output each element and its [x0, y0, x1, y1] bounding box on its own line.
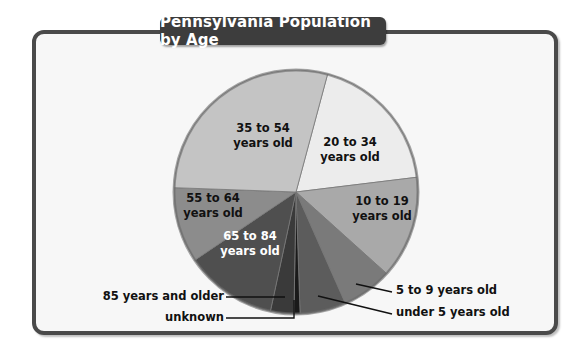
label-line: 55 to 64	[178, 191, 248, 206]
label-line: 65 to 84	[210, 229, 290, 244]
slice-label-10-19: 10 to 19 years old	[342, 194, 422, 224]
pie-chart	[0, 0, 586, 354]
label-line: 10 to 19	[342, 194, 422, 209]
label-line: years old	[310, 150, 390, 165]
callout-5-to-9: 5 to 9 years old	[396, 283, 497, 297]
callout-unknown: unknown	[165, 310, 224, 324]
callout-85-and-older: 85 years and older	[103, 289, 224, 303]
callout-under-5: under 5 years old	[396, 305, 510, 319]
chart-title: Pennsylvania Population by Age	[160, 17, 386, 45]
label-line: years old	[218, 136, 308, 151]
slice-label-55-64: 55 to 64 years old	[178, 191, 248, 221]
label-line: 35 to 54	[218, 121, 308, 136]
slice-label-65-84: 65 to 84 years old	[210, 229, 290, 259]
label-line: years old	[178, 206, 248, 221]
label-line: years old	[342, 209, 422, 224]
slice-label-20-34: 20 to 34 years old	[310, 135, 390, 165]
label-line: years old	[210, 244, 290, 259]
slice-label-35-54: 35 to 54 years old	[218, 121, 308, 151]
label-line: 20 to 34	[310, 135, 390, 150]
